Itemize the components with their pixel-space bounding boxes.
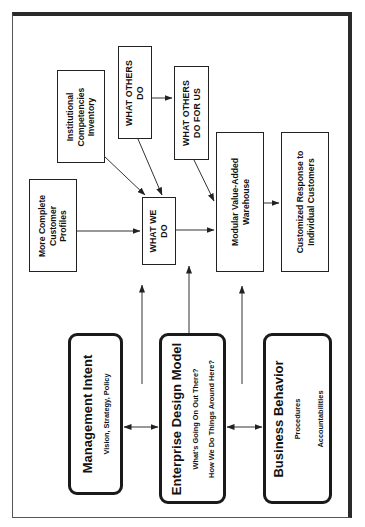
label-line: Customized Response to [295,151,306,254]
institutional-competencies-box: Institutional Competencies Inventory [57,70,105,163]
what-others-do-box: WHAT OTHERS DO [118,46,152,139]
warehouse-box: Modular Value-Added Warehouse [216,132,264,272]
box-title: Management Intent [80,355,96,473]
what-others-do-for-us-box: WHAT OTHERS DO FOR US [174,66,209,160]
label-line: DO [135,86,146,99]
label-line: Modular Value-Added [230,158,241,246]
institutional-competencies-label: Institutional Competencies Inventory [65,87,97,146]
business-behavior-label: Business Behavior Procedures Accountabil… [270,360,325,477]
label-line: Customer [48,205,59,245]
box-title: Business Behavior [270,360,286,477]
warehouse-label: Modular Value-Added Warehouse [230,158,251,246]
customer-profiles-label: More Complete Customer Profiles [37,194,69,256]
box-subtitle: How We Do Things Around Here? [207,360,217,478]
label-line: Institutional [65,92,76,141]
label-line: WHAT OTHERS [181,80,192,146]
management-intent-label: Management Intent Vision, Strategy, Poli… [80,355,112,473]
enterprise-design-model-label: Enterprise Design Model What's Going On … [169,342,217,494]
label-line: Warehouse [240,179,251,225]
box-subtitle: Vision, Strategy, Policy [102,373,112,454]
enterprise-design-model-box: Enterprise Design Model What's Going On … [159,333,226,504]
label-line: WHAT OTHERS [124,60,135,126]
box-title: Enterprise Design Model [169,342,185,494]
what-others-do-for-us-label: WHAT OTHERS DO FOR US [181,80,203,146]
enterprise-design-diagram: Institutional Competencies Inventory WHA… [0,0,365,527]
customized-response-box: Customized Response to Individual Custom… [281,132,329,272]
label-line: Individual Customers [305,158,316,245]
business-behavior-box: Business Behavior Procedures Accountabil… [263,333,332,504]
customer-profiles-box: More Complete Customer Profiles [29,179,77,272]
box-subtitle: What's Going On Out There? [191,368,201,469]
what-others-do-label: WHAT OTHERS DO [124,60,146,126]
label-line: DO FOR US [192,88,203,138]
label-line: WHAT WE [148,209,159,252]
label-line: Profiles [58,210,69,242]
label-line: DO [159,224,170,237]
management-intent-box: Management Intent Vision, Strategy, Poli… [68,333,123,495]
customized-response-label: Customized Response to Individual Custom… [295,151,316,254]
what-we-do-box: WHAT WE DO [142,197,176,265]
box-subtitle: Accountabilities [315,390,325,447]
what-we-do-label: WHAT WE DO [148,209,170,252]
label-line: Competencies [76,87,87,146]
box-subtitle: Procedures [292,398,302,439]
label-line: Inventory [86,97,97,136]
label-line: More Complete [37,194,48,256]
